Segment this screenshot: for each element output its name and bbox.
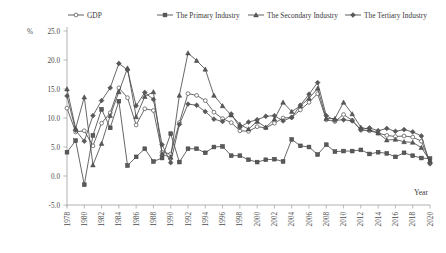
legend-label: The Primary Industry (176, 11, 240, 20)
series-path (67, 101, 430, 185)
data-point (169, 132, 173, 136)
data-point (108, 85, 113, 90)
data-point (143, 107, 147, 111)
x-tick-label: 2002 (271, 212, 279, 227)
data-point (100, 107, 104, 111)
data-point (126, 164, 130, 168)
data-point (82, 129, 86, 133)
data-point (272, 113, 277, 118)
x-tick-label: 1978 (64, 212, 72, 227)
data-point (65, 106, 69, 110)
data-point (82, 95, 87, 99)
data-point (177, 160, 181, 164)
data-point (350, 149, 354, 153)
series-path (67, 88, 430, 163)
data-point (394, 155, 398, 159)
data-point (91, 163, 96, 167)
line-chart: 25.020.015.010.05.00.0-5.0%1978198019821… (0, 0, 446, 253)
y-tick-label: 15.0 (47, 86, 60, 94)
x-tick-label: 2004 (288, 212, 296, 227)
data-point (411, 154, 415, 158)
x-tick-label: 2000 (254, 212, 262, 227)
data-point (229, 154, 233, 158)
x-tick-label: 2010 (340, 212, 348, 227)
data-point (186, 51, 191, 55)
x-tick-label: 2008 (323, 212, 331, 227)
x-tick-label: 1980 (81, 212, 89, 227)
x-tick-label: 1992 (185, 212, 193, 227)
x-tick-label: 1990 (167, 212, 175, 227)
data-point (186, 92, 190, 96)
data-point (134, 155, 138, 159)
data-point (342, 149, 346, 153)
data-point (160, 156, 164, 160)
data-point (177, 93, 182, 97)
data-point (99, 98, 104, 103)
data-point (402, 127, 407, 132)
data-point (307, 100, 311, 104)
data-point (151, 90, 156, 94)
data-point (117, 99, 121, 103)
data-point (152, 160, 156, 164)
data-point (186, 102, 191, 107)
x-axis-title: Year (414, 188, 428, 197)
data-point (298, 144, 302, 148)
data-point (393, 129, 398, 134)
data-point (212, 145, 216, 149)
data-point (212, 110, 216, 114)
legend: GDPThe Primary IndustryThe Secondary Ind… (68, 11, 427, 20)
data-point (376, 150, 380, 154)
y-tick-label: -5.0 (49, 202, 61, 210)
data-point (273, 157, 277, 161)
chart-canvas: 25.020.015.010.05.00.0-5.0%1978198019821… (0, 0, 446, 253)
data-point (273, 121, 277, 125)
data-point (212, 93, 217, 97)
data-point (238, 154, 242, 158)
x-tick-label: 1984 (115, 212, 123, 227)
data-point (221, 145, 225, 149)
data-point (341, 117, 346, 122)
data-point (402, 151, 406, 155)
series-path (67, 63, 430, 163)
data-point (74, 139, 78, 143)
data-point (410, 130, 415, 135)
data-point (143, 147, 147, 151)
x-tick-label: 1996 (219, 212, 227, 227)
x-tick-label: 2014 (375, 212, 383, 227)
data-point (263, 114, 268, 119)
y-tick-label: 25.0 (47, 28, 60, 36)
data-point (99, 141, 104, 145)
x-tick-label: 1994 (202, 212, 210, 227)
data-point (168, 160, 173, 165)
series-path (67, 53, 430, 165)
data-point (91, 113, 96, 118)
data-point (203, 151, 207, 155)
data-point (385, 151, 389, 155)
data-point (324, 143, 328, 147)
data-point (342, 113, 346, 117)
data-point (134, 115, 139, 119)
y-tick-label: 0.0 (51, 173, 60, 181)
legend-marker (351, 13, 356, 18)
data-point (82, 183, 86, 187)
data-point (255, 117, 260, 122)
data-point (246, 120, 251, 125)
y-tick-label: 20.0 (47, 57, 60, 65)
data-point (65, 150, 69, 154)
x-tick-label: 1982 (98, 212, 106, 227)
data-point (281, 160, 285, 164)
data-point (333, 150, 337, 154)
data-point (195, 93, 199, 97)
series-the-primary-industry (65, 99, 432, 186)
data-point (368, 152, 372, 156)
data-point (247, 158, 251, 162)
x-tick-label: 2020 (427, 212, 435, 227)
data-point (316, 153, 320, 157)
x-tick-label: 2016 (392, 212, 400, 227)
data-point (229, 121, 233, 125)
y-tick-label: 5.0 (51, 144, 60, 152)
data-point (341, 100, 346, 104)
legend-label: The Tertiary Industry (364, 11, 427, 20)
legend-marker (163, 13, 167, 17)
data-point (402, 134, 406, 138)
